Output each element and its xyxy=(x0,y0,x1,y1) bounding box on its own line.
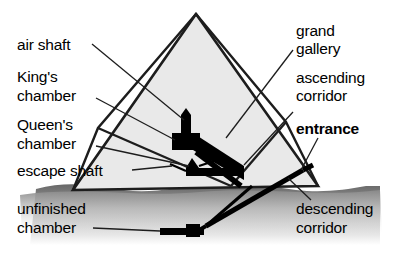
label-descending-corridor-line1: descending xyxy=(296,199,373,218)
label-grand-gallery-line1: grand xyxy=(296,21,335,40)
label-kings-chamber-line1: King's xyxy=(17,67,58,86)
label-escape-shaft: escape shaft xyxy=(17,161,103,180)
label-descending-corridor-line2: corridor xyxy=(296,218,347,237)
label-air-shaft: air shaft xyxy=(17,35,70,54)
label-ascending-corridor-line2: corridor xyxy=(296,86,347,105)
label-ascending-corridor-line1: ascending xyxy=(296,68,365,87)
label-grand-gallery-line2: gallery xyxy=(296,39,340,58)
unfinished-chamber-block xyxy=(186,224,200,237)
label-entrance: entrance xyxy=(296,119,359,138)
label-queens-chamber-line2: chamber xyxy=(17,134,76,153)
label-queens-chamber-line1: Queen's xyxy=(17,115,73,134)
label-unfinished-chamber-line2: chamber xyxy=(17,218,76,237)
queens-passage-shape xyxy=(186,168,242,176)
pyramid-cross-section-diagram: air shaft King's chamber Queen's chamber… xyxy=(0,0,396,261)
label-kings-chamber-line2: chamber xyxy=(17,86,76,105)
label-unfinished-chamber-line1: unfinished xyxy=(17,199,86,218)
